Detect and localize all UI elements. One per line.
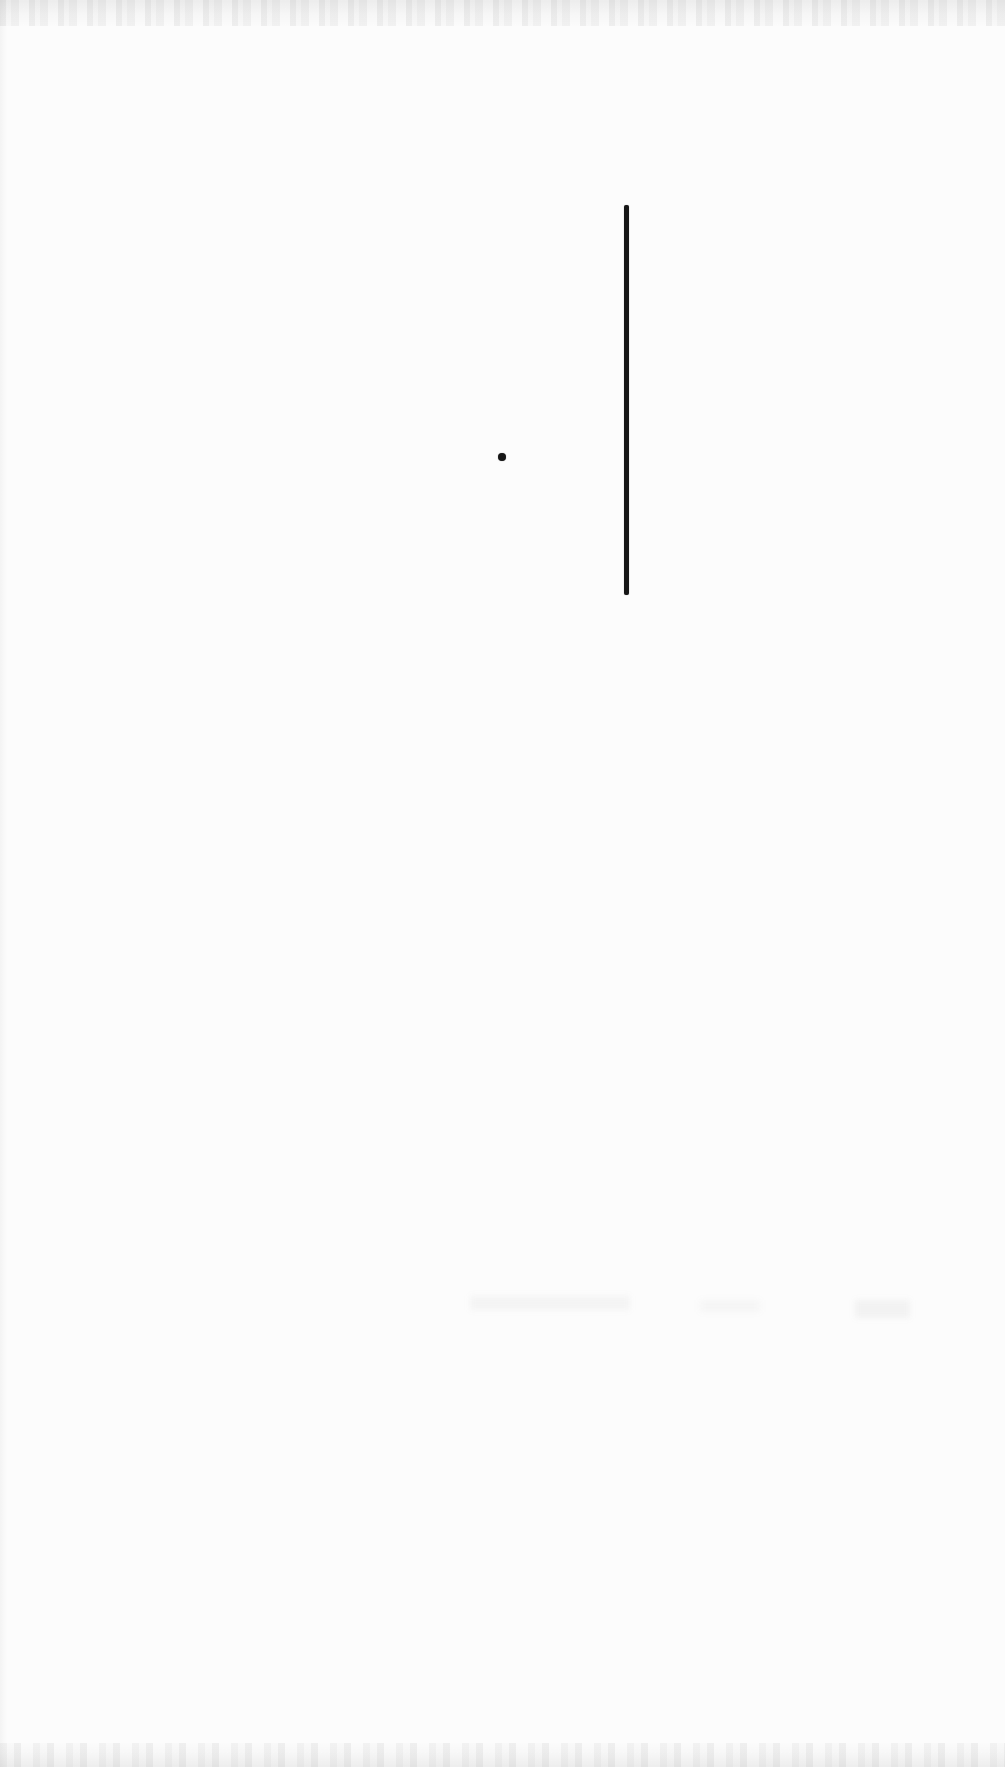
scanned-page <box>0 0 1005 1767</box>
bleed-through-smudge <box>470 1296 630 1310</box>
bleed-through-smudge <box>700 1300 760 1312</box>
vertical-rule-mark <box>624 205 629 595</box>
bleed-through-smudge <box>855 1300 910 1318</box>
ink-dot <box>498 453 506 461</box>
marks-layer <box>0 0 1005 1767</box>
